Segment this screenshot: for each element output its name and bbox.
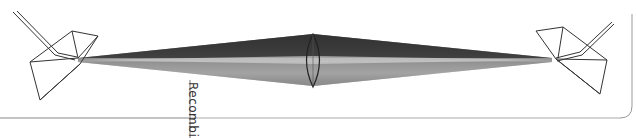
dispersed-spectrum-beam xyxy=(78,34,552,86)
left-prism xyxy=(30,31,98,100)
recombined-label: Recombined xyxy=(186,82,200,138)
incoming-light-ray xyxy=(13,11,77,60)
optics-diagram xyxy=(0,0,636,138)
diagram-canvas: Recombined xyxy=(0,0,636,138)
